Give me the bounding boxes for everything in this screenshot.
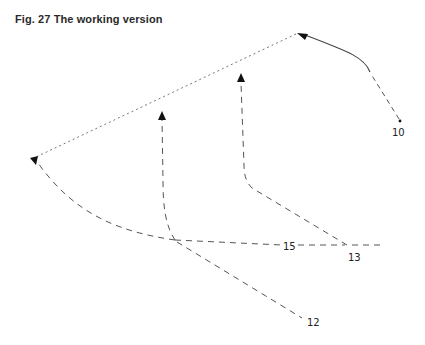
dashed-path-12 (177, 242, 302, 318)
label-15: 15 (283, 241, 296, 252)
arrowhead-middle-icon (158, 111, 166, 120)
arrowhead-top-icon (297, 33, 308, 40)
arrowhead-right-icon (237, 73, 245, 82)
solid-curve-path (305, 35, 370, 72)
dashed-curve-left (38, 163, 175, 240)
point-10-dot (399, 120, 402, 123)
dashed-path-13 (241, 83, 347, 245)
dashed-vertical-middle (162, 120, 175, 240)
label-10: 10 (392, 127, 405, 138)
arrowhead-left-icon (30, 156, 38, 165)
path-diagram: 10 12 13 15 (0, 0, 425, 345)
dashed-horizontal-line (175, 240, 385, 245)
dotted-connector-line (36, 34, 296, 157)
label-12: 12 (307, 317, 320, 328)
dashed-path-10 (371, 74, 399, 119)
label-13: 13 (348, 252, 361, 263)
